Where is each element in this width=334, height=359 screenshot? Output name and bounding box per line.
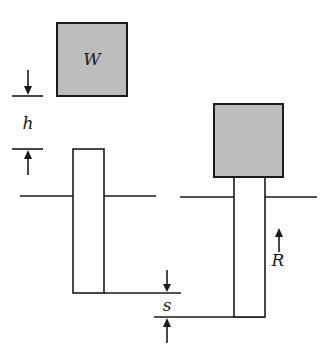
pile-after [234, 177, 265, 317]
s-label: s [163, 295, 172, 315]
weight-label: W [83, 49, 102, 69]
h-label: h [23, 113, 34, 133]
resistance-label: R [271, 250, 285, 270]
arrow-down-icon [24, 86, 32, 95]
before-impact-panel: W h [12, 23, 181, 293]
pile-driving-diagram: W h s R [0, 0, 334, 359]
arrow-up-icon [275, 228, 283, 237]
pile-before [73, 149, 104, 293]
weight-block-resting [214, 104, 283, 177]
after-impact-panel: R [180, 104, 317, 317]
arrow-down-icon [163, 284, 171, 292]
